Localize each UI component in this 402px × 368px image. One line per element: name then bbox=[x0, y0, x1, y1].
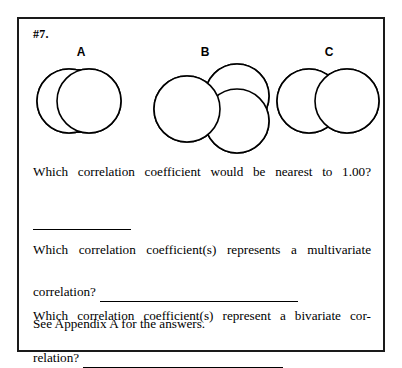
item-number-label: #7. bbox=[33, 27, 49, 42]
question-2: Which correlation coefficient(s) represe… bbox=[33, 239, 371, 302]
question-2-line-2: correlation? bbox=[33, 281, 371, 302]
questions-list: Which correlation coefficient would be n… bbox=[33, 161, 371, 368]
appendix-note: See Appendix A for the answers. bbox=[33, 315, 205, 333]
venn-diagram-b bbox=[145, 63, 280, 155]
diagram-label-c: C bbox=[319, 45, 339, 59]
question-2-text-line-2: correlation? bbox=[33, 284, 96, 299]
diagram-label-b: B bbox=[195, 45, 215, 59]
venn-b-outline-left bbox=[154, 76, 220, 142]
question-1-answer-blank[interactable] bbox=[33, 217, 131, 230]
question-2-answer-blank[interactable] bbox=[100, 289, 298, 302]
question-1-text: Which correlation coefficient would be n… bbox=[33, 161, 371, 203]
venn-diagram-a bbox=[27, 63, 137, 139]
question-3-line-2: relation? bbox=[33, 347, 371, 368]
venn-diagram-row: A B bbox=[19, 45, 383, 155]
diagram-label-a: A bbox=[71, 45, 91, 59]
question-3-answer-blank[interactable] bbox=[83, 355, 283, 368]
venn-diagram-c bbox=[269, 63, 387, 139]
venn-c-outline-right bbox=[315, 69, 379, 133]
question-3-text-line-2: relation? bbox=[33, 350, 79, 365]
venn-a-outline-right bbox=[57, 69, 121, 133]
question-2-text-line-1: Which correlation coefficient(s) represe… bbox=[33, 239, 371, 281]
question-1-answer-row bbox=[33, 212, 371, 226]
worksheet-frame: #7. A B bbox=[17, 17, 385, 352]
